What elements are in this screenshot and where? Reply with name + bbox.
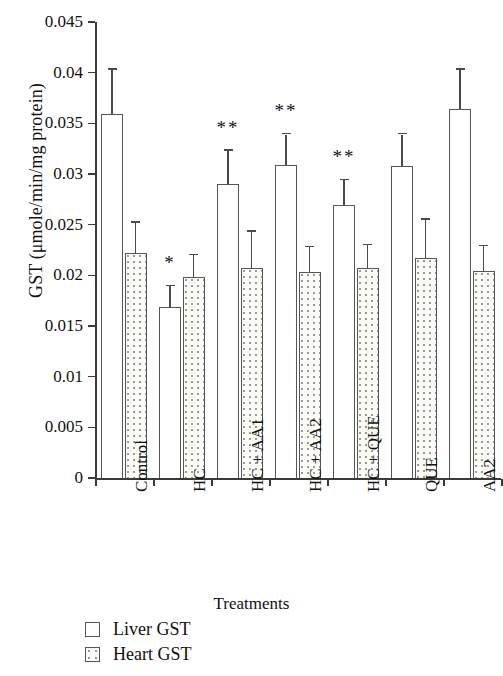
plot-area: 00.0050.010.0150.020.0250.030.0350.040.0…	[95, 22, 503, 478]
error-bar-stem-liver-4	[343, 180, 344, 205]
x-axis-category-label: Control	[132, 440, 152, 492]
y-axis-line	[95, 22, 97, 479]
x-axis-tick	[443, 479, 445, 486]
y-axis-tick-label: 0.035	[45, 113, 83, 133]
bar-liver-0	[101, 114, 123, 478]
bar-heart-6	[473, 271, 495, 478]
error-bar-stem-heart-2	[251, 232, 252, 268]
error-bar-stem-liver-2	[227, 151, 228, 184]
legend-item-heart-gst[interactable]: Heart GST	[85, 642, 191, 667]
error-bar-cap-liver-6	[456, 68, 465, 69]
error-bar-cap-heart-6	[479, 245, 488, 246]
y-axis-title: GST (μmole/min/mg protein)	[26, 51, 47, 331]
error-bar-stem-liver-1	[169, 286, 170, 306]
y-axis-tick: 0.035	[88, 123, 95, 125]
x-axis-category-label: AA2	[480, 459, 500, 492]
x-axis-tick	[385, 479, 387, 486]
y-axis-tick: 0.03	[88, 173, 95, 175]
error-bar-cap-liver-1	[166, 285, 175, 286]
x-axis-tick	[269, 479, 271, 486]
x-axis-category-label: HC + QUE	[364, 415, 384, 492]
error-bar-cap-heart-5	[421, 218, 430, 219]
bar-liver-3	[275, 165, 297, 478]
error-bar-cap-liver-3	[282, 133, 291, 134]
y-axis-tick: 0.015	[88, 325, 95, 327]
error-bar-cap-heart-4	[363, 244, 372, 245]
bar-liver-4	[333, 205, 355, 478]
x-axis-tick	[501, 479, 503, 486]
bar-heart-5	[415, 258, 437, 478]
error-bar-cap-liver-2	[224, 149, 233, 150]
y-axis-tick: 0.045	[88, 21, 95, 23]
y-axis-tick-label: 0.025	[45, 215, 83, 235]
bar-liver-6	[449, 109, 471, 478]
error-bar-cap-liver-0	[108, 68, 117, 69]
error-bar-stem-liver-5	[401, 135, 402, 166]
x-axis-title: Treatments	[0, 594, 503, 614]
error-bar-stem-heart-4	[367, 245, 368, 268]
x-axis-tick	[327, 479, 329, 486]
x-axis-tick	[153, 479, 155, 486]
error-bar-stem-liver-0	[111, 70, 112, 115]
legend-swatch-icon	[85, 622, 100, 637]
error-bar-stem-liver-6	[459, 70, 460, 110]
y-axis-tick-label: 0.015	[45, 316, 83, 336]
error-bar-cap-heart-3	[305, 246, 314, 247]
x-axis-category-label: HC	[190, 468, 210, 492]
gst-bar-chart-figure: GST (μmole/min/mg protein) 00.0050.010.0…	[0, 0, 503, 676]
y-axis-tick: 0.02	[88, 275, 95, 277]
y-axis-tick: 0	[88, 477, 95, 479]
error-bar-cap-heart-0	[131, 221, 140, 222]
chart-legend: Liver GSTHeart GST	[85, 617, 191, 667]
legend-item-liver-gst[interactable]: Liver GST	[85, 617, 191, 642]
y-axis-tick: 0.04	[88, 72, 95, 74]
error-bar-stem-heart-5	[425, 220, 426, 259]
y-axis-tick: 0.025	[88, 224, 95, 226]
x-axis-tick	[211, 479, 213, 486]
error-bar-stem-heart-0	[135, 223, 136, 253]
x-axis-category-label: QUE	[422, 457, 442, 492]
legend-item-label: Heart GST	[113, 644, 191, 665]
legend-item-label: Liver GST	[113, 619, 190, 640]
y-axis-tick-label: 0.005	[45, 417, 83, 437]
y-axis-tick-label: 0.045	[45, 12, 83, 32]
legend-swatch-icon	[85, 647, 100, 662]
error-bar-stem-liver-3	[285, 135, 286, 165]
error-bar-cap-liver-5	[398, 133, 407, 134]
significance-mark-1: *	[164, 253, 176, 272]
bar-heart-1	[183, 277, 205, 478]
y-axis-tick-label: 0.04	[53, 63, 83, 83]
y-axis-tick: 0.01	[88, 376, 95, 378]
y-axis-tick-label: 0	[75, 468, 84, 488]
y-axis-tick-label: 0.03	[53, 164, 83, 184]
error-bar-cap-liver-4	[340, 179, 349, 180]
error-bar-cap-heart-2	[247, 230, 256, 231]
y-axis-tick: 0.005	[88, 427, 95, 429]
error-bar-stem-heart-1	[193, 255, 194, 277]
x-axis-category-label: HC + AA2	[306, 418, 326, 492]
significance-mark-3: **	[275, 101, 298, 120]
error-bar-cap-heart-1	[189, 254, 198, 255]
bar-liver-5	[391, 166, 413, 478]
bar-liver-2	[217, 184, 239, 478]
significance-mark-4: **	[333, 147, 356, 166]
x-axis-tick	[95, 479, 97, 486]
y-axis-tick-label: 0.02	[53, 265, 83, 285]
significance-mark-2: **	[217, 118, 240, 137]
error-bar-stem-heart-3	[309, 247, 310, 272]
x-axis-category-label: HC + AA1	[248, 418, 268, 492]
bar-liver-1	[159, 307, 181, 478]
error-bar-stem-heart-6	[483, 246, 484, 271]
y-axis-tick-label: 0.01	[53, 367, 83, 387]
